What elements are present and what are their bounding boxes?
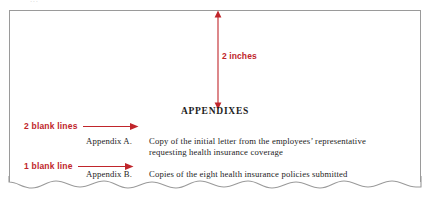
page-heading: APPENDIXES [0, 106, 430, 116]
appendix-label: Appendix B. [86, 169, 146, 180]
right-arrow-icon [83, 122, 139, 131]
cropped-text-line: ... [30, 0, 230, 2]
appendix-a-entry: Appendix A. Copy of the initial letter f… [86, 136, 386, 159]
appendix-description: Copy of the initial letter from the empl… [149, 136, 386, 159]
appendix-description: Copies of the eight health insurance pol… [149, 169, 386, 180]
appendix-label: Appendix A. [86, 136, 146, 147]
callout-label: 1 blank line [24, 161, 73, 171]
callout-label: 2 blank lines [24, 121, 78, 131]
callout-two-blank-lines: 2 blank lines [24, 121, 139, 131]
appendix-b-entry: Appendix B. Copies of the eight health i… [86, 169, 386, 180]
figure-container: ... 2 inches APPENDIXES 2 blank lines 1 … [0, 0, 430, 202]
measurement-label: 2 inches [222, 51, 257, 61]
